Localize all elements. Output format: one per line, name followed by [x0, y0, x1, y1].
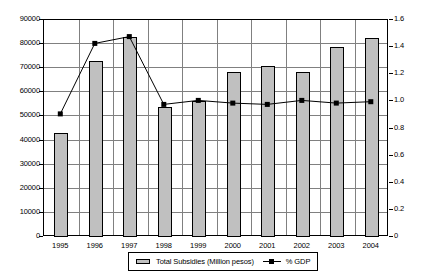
pct-gdp-marker-1999	[196, 98, 201, 103]
pct-gdp-marker-2004	[368, 99, 373, 104]
left-axis-tick-label: 70000	[0, 63, 40, 71]
right-axis-tick-mark	[389, 182, 393, 183]
right-axis-tick-label: 1.4	[394, 42, 428, 50]
right-axis-tick-mark	[389, 46, 393, 47]
pct-gdp-marker-2001	[265, 102, 270, 107]
right-axis-tick-mark	[389, 100, 393, 101]
right-axis-tick-mark	[389, 19, 393, 20]
right-axis-tick-mark	[389, 155, 393, 156]
x-axis-tick-label: 1996	[78, 241, 112, 250]
x-axis-tick-label: 1995	[43, 241, 77, 250]
legend-label-total-subsidies: Total Subsidies (Million pesos)	[156, 257, 254, 266]
right-axis-tick-label: 1.2	[394, 69, 428, 77]
pct-gdp-marker-2002	[299, 98, 304, 103]
right-axis-tick-label: 1.6	[394, 15, 428, 23]
right-axis-tick-label: 0.2	[394, 205, 428, 213]
right-axis-tick-mark	[389, 236, 393, 237]
left-axis-tick-label: 90000	[0, 15, 40, 23]
x-axis-tick-label: 2003	[319, 241, 353, 250]
pct-gdp-line	[60, 37, 371, 114]
right-axis-tick-mark	[389, 209, 393, 210]
right-axis-tick-label: 1.0	[394, 96, 428, 104]
right-axis-tick-mark	[389, 128, 393, 129]
line-swatch-icon	[263, 258, 281, 265]
left-axis-tick-label: 50000	[0, 111, 40, 119]
x-axis-tick-label: 1999	[181, 241, 215, 250]
left-axis-tick-label: 80000	[0, 39, 40, 47]
legend-item-pct-gdp: % GDP	[263, 257, 311, 266]
x-axis-tick-label: 2004	[354, 241, 388, 250]
right-axis-tick-label: 0.6	[394, 151, 428, 159]
pct-gdp-marker-2003	[334, 101, 339, 106]
legend-label-pct-gdp: % GDP	[286, 257, 311, 266]
right-axis-tick-label: 0.4	[394, 178, 428, 186]
right-axis-tick-label: 0.8	[394, 124, 428, 132]
bar-swatch-icon	[136, 259, 150, 264]
x-axis-tick-label: 2001	[250, 241, 284, 250]
left-axis-tick-label: 0	[0, 232, 40, 240]
pct-gdp-marker-1995	[58, 111, 63, 116]
pct-gdp-marker-1998	[161, 102, 166, 107]
pct-gdp-marker-2000	[230, 101, 235, 106]
chart-legend: Total Subsidies (Million pesos) % GDP	[128, 252, 318, 271]
left-axis-tick-label: 40000	[0, 136, 40, 144]
right-axis-tick-mark	[389, 73, 393, 74]
left-axis-tick-mark	[39, 236, 43, 237]
left-axis-tick-label: 30000	[0, 160, 40, 168]
left-axis-tick-label: 60000	[0, 87, 40, 95]
line-series-layer	[43, 19, 388, 236]
pct-gdp-marker-1996	[92, 41, 97, 46]
chart-container: 0100002000030000400005000060000700008000…	[0, 0, 429, 278]
left-axis-tick-label: 20000	[0, 184, 40, 192]
legend-item-total-subsidies: Total Subsidies (Million pesos)	[136, 257, 254, 266]
right-axis-tick-label: 0	[394, 232, 428, 240]
x-axis-tick-label: 2002	[285, 241, 319, 250]
x-axis-tick-label: 1997	[112, 241, 146, 250]
left-axis-tick-label: 10000	[0, 208, 40, 216]
x-axis-tick-label: 2000	[216, 241, 250, 250]
pct-gdp-marker-1997	[127, 34, 132, 39]
x-axis-tick-label: 1998	[147, 241, 181, 250]
